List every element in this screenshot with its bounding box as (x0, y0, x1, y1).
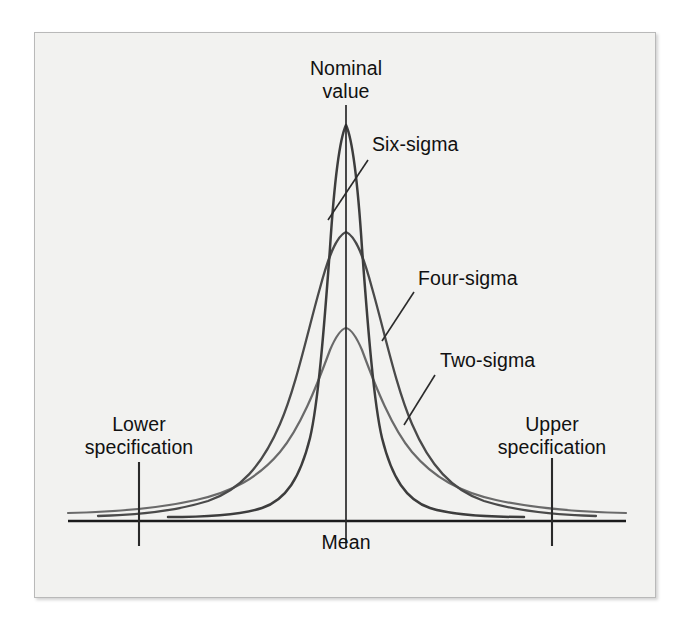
label-four-sigma: Four-sigma (418, 267, 518, 290)
figure-page: Nominal value Six-sigma Four-sigma Two-s… (0, 0, 697, 633)
figure-frame (34, 32, 656, 598)
label-upper-specification: Upper specification (498, 413, 607, 459)
label-six-sigma: Six-sigma (372, 133, 459, 156)
label-lower-specification: Lower specification (85, 413, 194, 459)
label-nominal-value: Nominal value (310, 57, 382, 103)
label-mean: Mean (321, 531, 370, 554)
label-two-sigma: Two-sigma (440, 349, 535, 372)
